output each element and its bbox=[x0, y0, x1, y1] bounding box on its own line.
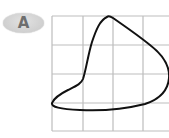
grid-figure bbox=[0, 0, 169, 138]
closed-curve-shape bbox=[52, 16, 169, 110]
grid-lines bbox=[52, 16, 169, 131]
